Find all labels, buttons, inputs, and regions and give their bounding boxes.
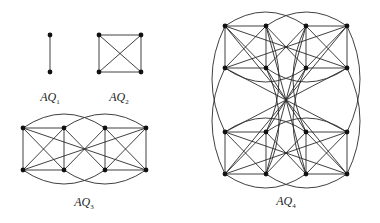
graph-aq3 (21, 114, 149, 184)
vertex (345, 130, 350, 135)
vertex (103, 168, 108, 173)
vertex (62, 126, 67, 131)
label-aq2: AQ2 (109, 90, 129, 106)
vertex (264, 24, 269, 29)
vertex (304, 66, 309, 71)
vertex (264, 130, 269, 135)
label-aq3: AQ3 (74, 195, 94, 211)
vertex (62, 168, 67, 173)
vertex (21, 126, 26, 131)
graph-aq4 (212, 12, 360, 188)
vertex (139, 33, 144, 38)
vertex (223, 130, 228, 135)
vertex (103, 126, 108, 131)
vertex (223, 66, 228, 71)
label-aq4: AQ4 (276, 194, 296, 210)
vertex (304, 172, 309, 177)
vertex (48, 33, 53, 38)
edge-arc (347, 68, 360, 174)
vertex (144, 126, 149, 131)
vertex (144, 168, 149, 173)
label-aq1: AQ1 (40, 90, 60, 106)
vertex (97, 70, 102, 75)
vertex (304, 24, 309, 29)
vertex (223, 24, 228, 29)
vertex (139, 70, 144, 75)
vertex (48, 70, 53, 75)
vertex (97, 33, 102, 38)
edge-arc (347, 26, 360, 132)
vertex (345, 24, 350, 29)
vertex (21, 168, 26, 173)
graph-aq2 (97, 33, 144, 75)
vertex (345, 66, 350, 71)
edge-arc (212, 68, 225, 174)
vertex (223, 172, 228, 177)
vertex (304, 130, 309, 135)
vertex (264, 172, 269, 177)
augmented-cube-diagram (0, 0, 380, 223)
edge-arc (212, 26, 225, 132)
graph-aq1 (48, 33, 53, 75)
vertex (345, 172, 350, 177)
vertex (264, 66, 269, 71)
